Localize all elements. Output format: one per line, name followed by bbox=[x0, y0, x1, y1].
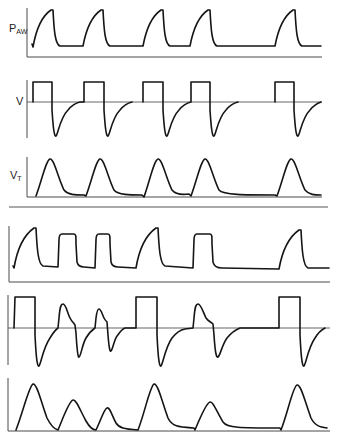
flow-label-main: V bbox=[16, 95, 23, 107]
vt-bottom-trace bbox=[16, 384, 327, 430]
vt-label: VT bbox=[10, 170, 22, 182]
panel-paw-top bbox=[27, 8, 322, 57]
flow-bottom-trace bbox=[14, 297, 325, 366]
flow-label: V bbox=[16, 96, 23, 107]
flow-top-trace bbox=[33, 82, 321, 136]
paw-bottom-trace bbox=[13, 228, 329, 269]
paw-label: PAW bbox=[9, 23, 27, 35]
panel-paw-bottom bbox=[9, 226, 330, 282]
vt-top-trace bbox=[36, 159, 321, 197]
panel-flow-bottom bbox=[8, 295, 330, 366]
ventilator-waveform-diagram bbox=[0, 0, 338, 443]
panel-vt-top bbox=[27, 157, 322, 197]
paw-top-trace bbox=[32, 10, 321, 47]
panel-vt-bottom bbox=[8, 378, 330, 431]
vt-bottom-axis bbox=[8, 378, 330, 431]
paw-bottom-axis bbox=[9, 226, 330, 282]
panel-flow-top bbox=[27, 80, 322, 138]
paw-label-sub: AW bbox=[16, 28, 27, 35]
vt-label-sub: T bbox=[17, 175, 21, 182]
vt-top-axis bbox=[27, 157, 322, 197]
